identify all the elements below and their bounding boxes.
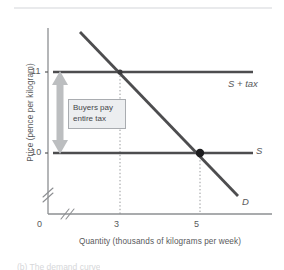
callout-line-1: Buyers pay: [73, 103, 121, 114]
equilibrium-point-after-tax: [117, 69, 122, 74]
x-axis-tick-label-0: 0: [37, 219, 42, 229]
x-axis-tick-label-5: 5: [194, 219, 199, 229]
tax-incidence-arrow: [52, 71, 68, 154]
buyers-pay-entire-tax-callout: Buyers pay entire tax: [68, 99, 126, 129]
figure-container: 11 10 0 3 5 Price (pence per kilogram) Q…: [0, 0, 284, 270]
supply-label: S: [256, 145, 262, 156]
clipped-bottom-caption: (b) The demand curve: [17, 262, 100, 270]
callout-line-2: entire tax: [73, 114, 121, 125]
supply-plus-tax-label: S + tax: [228, 78, 258, 89]
x-axis-title: Quantity (thousands of kilograms per wee…: [40, 237, 280, 246]
equilibrium-point-before-tax: [196, 149, 204, 157]
y-axis-title: Price (pence per kilogram): [26, 33, 35, 193]
x-axis-tick-label-3: 3: [114, 219, 119, 229]
chart-canvas: [0, 0, 284, 270]
demand-label: D: [242, 196, 249, 207]
